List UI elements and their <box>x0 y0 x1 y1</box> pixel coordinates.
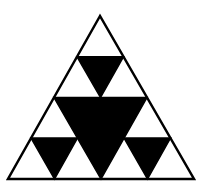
sierpinski-diagram <box>0 0 203 192</box>
